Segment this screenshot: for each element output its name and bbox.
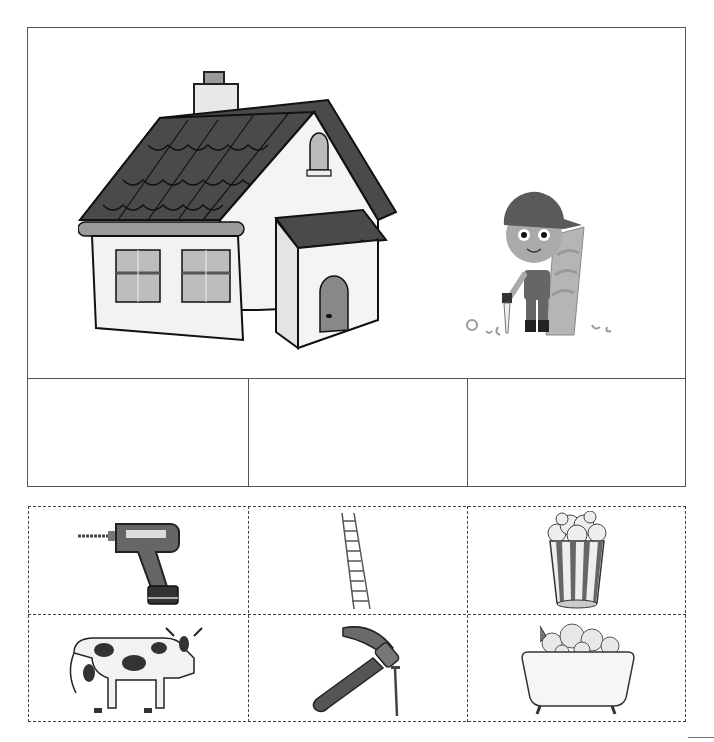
card-ladder[interactable] (249, 507, 467, 614)
carpenter-image (462, 175, 622, 340)
cow-icon (64, 618, 214, 718)
ladder-icon (328, 511, 388, 611)
carpenter-icon (462, 175, 622, 340)
card-popcorn[interactable] (468, 507, 686, 614)
house-image (78, 70, 398, 350)
drill-icon (74, 516, 204, 606)
hammer-icon (303, 618, 413, 718)
card-drill[interactable] (29, 507, 248, 614)
answer-box-3[interactable] (468, 379, 686, 486)
bathtub-icon (512, 618, 642, 718)
house-icon (78, 70, 398, 350)
answer-box-2[interactable] (249, 379, 467, 486)
card-cow[interactable] (29, 615, 248, 721)
page-corner-mark (688, 737, 714, 738)
answer-box-1[interactable] (28, 379, 248, 486)
card-bathtub[interactable] (468, 615, 686, 721)
popcorn-icon (542, 511, 612, 611)
card-hammer[interactable] (249, 615, 467, 721)
